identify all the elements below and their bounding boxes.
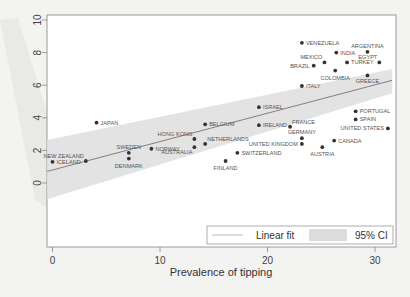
- point-label: NETHERLANDS: [207, 136, 249, 142]
- point-label: IRELAND: [263, 122, 287, 128]
- data-point: PORTUGAL: [354, 108, 391, 114]
- point-marker-icon: [193, 137, 197, 141]
- scatter-chart: 02468100102030 ICELANDNEW ZEALANDJAPANSW…: [0, 0, 410, 297]
- point-label: GERMANY: [288, 129, 317, 135]
- y-tick-label: 10: [32, 14, 43, 26]
- point-label: EGYPT: [358, 54, 378, 60]
- point-label: HONG KONG: [158, 131, 193, 137]
- legend: Linear fit95% CI: [207, 226, 393, 244]
- point-label: ISRAEL: [263, 104, 283, 110]
- y-tick-label: 8: [32, 49, 43, 55]
- point-label: UNITED KINGDOM: [249, 141, 298, 147]
- point-marker-icon: [127, 157, 131, 161]
- point-label: GREECE: [356, 78, 380, 84]
- point-marker-icon: [95, 121, 99, 125]
- point-marker-icon: [224, 159, 228, 163]
- point-marker-icon: [300, 41, 304, 45]
- legend-label-linear-fit: Linear fit: [256, 230, 295, 241]
- point-marker-icon: [334, 51, 338, 55]
- point-label: BELGIUM: [209, 121, 235, 127]
- point-marker-icon: [377, 60, 381, 64]
- point-label: SPAIN: [360, 116, 376, 122]
- point-marker-icon: [300, 84, 304, 88]
- chart-canvas: 02468100102030 ICELANDNEW ZEALANDJAPANSW…: [0, 0, 410, 297]
- y-tick-label: 0: [32, 180, 43, 186]
- data-point: SWITZERLAND: [236, 150, 282, 156]
- point-label: MEXICO: [300, 54, 323, 60]
- point-label: VENEZUELA: [306, 40, 340, 46]
- point-marker-icon: [333, 69, 337, 73]
- point-marker-icon: [51, 160, 55, 164]
- legend-band-swatch-icon: [309, 229, 347, 241]
- x-tick-label: 0: [50, 255, 56, 266]
- data-point: UNITED KINGDOM: [249, 141, 304, 147]
- point-label: NEW ZEALAND: [43, 153, 83, 159]
- point-marker-icon: [150, 147, 154, 151]
- point-marker-icon: [323, 60, 327, 64]
- point-marker-icon: [193, 145, 197, 149]
- point-label: ICELAND: [57, 159, 81, 165]
- point-marker-icon: [300, 142, 304, 146]
- data-point: VENEZUELA: [300, 40, 339, 46]
- point-marker-icon: [332, 139, 336, 143]
- point-label: BRAZIL: [290, 63, 310, 69]
- point-label: UNITED STATES: [341, 125, 385, 131]
- point-marker-icon: [203, 122, 207, 126]
- point-marker-icon: [236, 151, 240, 155]
- point-marker-icon: [354, 118, 358, 122]
- point-marker-icon: [320, 145, 324, 149]
- point-marker-icon: [366, 74, 370, 78]
- point-marker-icon: [84, 159, 88, 163]
- point-label: CANADA: [338, 138, 362, 144]
- point-label: JAPAN: [101, 120, 119, 126]
- point-marker-icon: [257, 123, 261, 127]
- point-marker-icon: [366, 50, 370, 54]
- point-marker-icon: [288, 125, 292, 129]
- legend-label-ci: 95% CI: [355, 230, 388, 241]
- point-marker-icon: [354, 109, 358, 113]
- x-tick-label: 10: [154, 255, 166, 266]
- point-label: COLOMBIA: [320, 75, 350, 81]
- y-tick-label: 2: [32, 147, 43, 153]
- point-marker-icon: [312, 64, 316, 68]
- point-marker-icon: [345, 60, 349, 64]
- point-label: AUSTRIA: [310, 151, 335, 157]
- point-marker-icon: [300, 136, 304, 140]
- point-label: DENMARK: [115, 163, 143, 169]
- point-marker-icon: [203, 142, 207, 146]
- point-label: ITALY: [306, 83, 321, 89]
- point-label: PORTUGAL: [360, 108, 391, 114]
- point-label: SWEDEN: [117, 144, 142, 150]
- point-label: ARGENTINA: [351, 43, 384, 49]
- point-label: FRANCE: [292, 119, 315, 125]
- point-marker-icon: [127, 151, 131, 155]
- y-tick-label: 6: [32, 82, 43, 88]
- point-label: FINLAND: [214, 165, 238, 171]
- data-point: UNITED STATES: [341, 125, 390, 131]
- y-tick-label: 4: [32, 115, 43, 121]
- point-label: INDIA: [340, 50, 355, 56]
- point-marker-icon: [386, 126, 390, 130]
- point-label: AUSTRALIA: [161, 149, 192, 155]
- point-marker-icon: [257, 105, 261, 109]
- point-label: SWITZERLAND: [241, 150, 281, 156]
- x-tick-label: 30: [369, 255, 381, 266]
- x-axis-label: Prevalence of tipping: [170, 266, 273, 278]
- x-tick-label: 20: [262, 255, 274, 266]
